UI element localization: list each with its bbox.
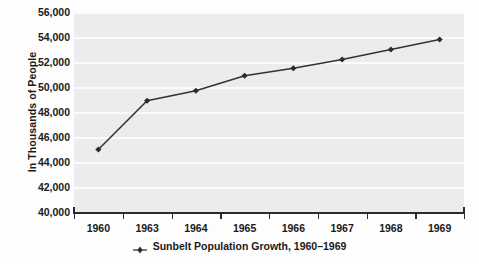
y-axis-tick-label: 40,000 xyxy=(16,206,70,218)
x-axis-tick-labels: 19601963196419651966196719681969 xyxy=(74,222,464,238)
x-axis-tick-label: 1969 xyxy=(428,222,451,234)
legend-marker-icon xyxy=(133,241,147,251)
data-point-marker xyxy=(437,36,443,42)
x-axis-tick xyxy=(172,212,173,219)
plot-area xyxy=(74,12,464,212)
x-axis-tick-label: 1968 xyxy=(379,222,402,234)
y-axis-tick-label: 54,000 xyxy=(16,31,70,43)
y-axis-tick-label: 52,000 xyxy=(16,56,70,68)
data-point-marker xyxy=(242,73,248,79)
x-axis-tick xyxy=(269,212,270,219)
x-axis-tick-label: 1960 xyxy=(87,222,110,234)
y-axis-tick-label: 46,000 xyxy=(16,131,70,143)
chart-figure: In Thousands of People 40,00042,00044,00… xyxy=(0,0,479,264)
x-axis-tick xyxy=(415,212,416,219)
y-axis-tick-label: 50,000 xyxy=(16,81,70,93)
data-series-line xyxy=(74,12,464,212)
y-axis-tick-label: 44,000 xyxy=(16,156,70,168)
y-axis-tick-labels: 40,00042,00044,00046,00048,00050,00052,0… xyxy=(16,12,70,212)
data-point-marker xyxy=(339,56,345,62)
x-axis-tick-label: 1964 xyxy=(184,222,207,234)
series-line-path xyxy=(98,40,439,150)
x-axis-tick-label: 1963 xyxy=(135,222,158,234)
y-axis-tick-label: 42,000 xyxy=(16,181,70,193)
data-point-marker xyxy=(290,65,296,71)
x-axis-tick-label: 1965 xyxy=(233,222,256,234)
data-point-marker xyxy=(388,46,394,52)
x-axis-tick-label: 1967 xyxy=(330,222,353,234)
x-axis-tick-label: 1966 xyxy=(282,222,305,234)
x-axis-tick xyxy=(318,212,319,219)
x-axis-tick xyxy=(367,212,368,219)
x-axis-tick xyxy=(74,212,75,219)
chart-legend: Sunbelt Population Growth, 1960–1969 xyxy=(0,240,479,252)
legend-label: Sunbelt Population Growth, 1960–1969 xyxy=(153,240,347,252)
y-axis-tick-label: 48,000 xyxy=(16,106,70,118)
y-axis-tick-label: 56,000 xyxy=(16,6,70,18)
x-axis-tick xyxy=(220,212,221,219)
x-axis-tick xyxy=(123,212,124,219)
data-point-marker xyxy=(193,88,199,94)
x-axis-tick xyxy=(464,212,465,219)
